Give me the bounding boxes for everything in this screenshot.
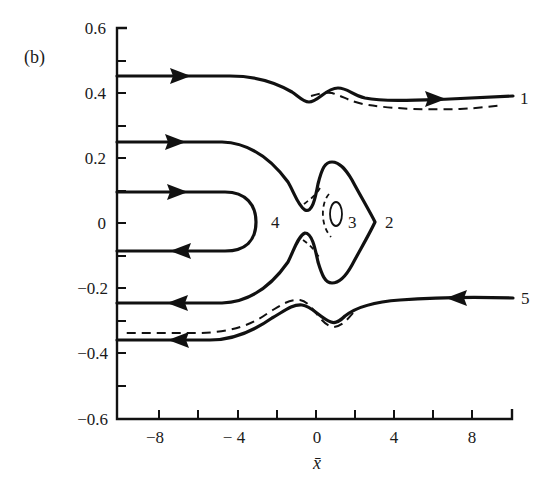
- curve-4-solid: [117, 192, 256, 251]
- y-tick-label: −0.6: [77, 410, 108, 429]
- streamline-3: 3: [323, 194, 357, 237]
- arrow-right-icon: [167, 184, 188, 200]
- x-tick-label: −8: [146, 428, 164, 447]
- streamline-4: 4: [117, 184, 280, 259]
- x-ticks: [159, 410, 472, 419]
- x-tick-label: 4: [390, 428, 399, 447]
- curve-label-4: 4: [271, 213, 280, 232]
- panel-label: (b): [24, 47, 45, 68]
- arrow-left-icon: [170, 243, 191, 259]
- y-tick-label: 0.6: [85, 19, 106, 38]
- y-tick-label: 0.2: [85, 149, 106, 168]
- curve-5-dashed: [123, 300, 353, 333]
- x-tick-labels: −8 − 4 0 4 8: [146, 428, 476, 447]
- curve-label-1: 1: [520, 89, 529, 108]
- streamline-figure: (b): [0, 0, 556, 487]
- x-tick-label: − 4: [223, 428, 246, 447]
- curve-2-solid: [117, 142, 375, 303]
- y-tick-label: 0.4: [85, 84, 107, 103]
- arrow-right-icon: [425, 91, 446, 107]
- x-axis-title: x̄: [312, 453, 321, 473]
- y-tick-label: −0.4: [77, 344, 108, 363]
- arrow-left-icon: [168, 332, 189, 348]
- y-tick-labels: 0.6 0.4 0.2 0 −0.2 −0.4 −0.6: [77, 19, 108, 429]
- arrow-right-icon: [170, 68, 191, 84]
- arrow-left-icon: [167, 295, 188, 311]
- streamline-5: 5: [117, 289, 530, 348]
- axis-lines: [117, 28, 512, 419]
- y-ticks: [117, 61, 126, 386]
- streamline-1: 1: [117, 68, 529, 109]
- curve-label-2: 2: [385, 213, 394, 232]
- y-tick-label: 0: [98, 214, 107, 233]
- curve-2-dashed-lower: [303, 240, 320, 259]
- curve-label-3: 3: [348, 213, 357, 232]
- x-tick-label: 0: [313, 428, 322, 447]
- x-tick-label: 8: [468, 428, 477, 447]
- arrow-left-icon: [446, 290, 467, 306]
- curve-label-5: 5: [521, 289, 530, 308]
- arrow-right-icon: [165, 134, 186, 150]
- y-tick-label: −0.2: [77, 279, 108, 298]
- curve-3-ellipse: [330, 202, 342, 226]
- figure-canvas: (b): [0, 0, 556, 487]
